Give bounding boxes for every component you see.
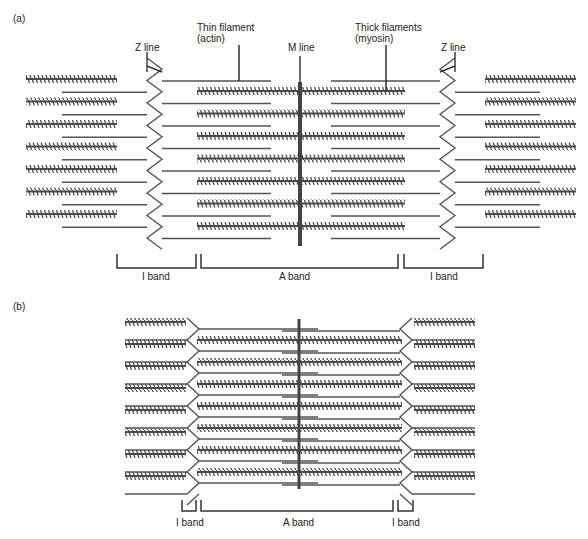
- panel-b-a-band-label: A band: [283, 517, 314, 528]
- i-band-bracket-right: [398, 500, 413, 511]
- panel-a-i-band-right-label: I band: [430, 271, 458, 282]
- i-band-bracket-right: [404, 254, 483, 268]
- thick-filament-label-line2: (myosin): [355, 33, 422, 44]
- panel-a-a-band-label: A band: [279, 271, 310, 282]
- a-band-bracket: [201, 500, 393, 511]
- panel-b-label: (b): [13, 301, 25, 312]
- i-band-bracket-left: [182, 500, 196, 511]
- panel-b-i-band-left-label: I band: [176, 517, 204, 528]
- thick-filament-label: Thick filaments (myosin): [355, 22, 422, 44]
- thick-filament-label-line1: Thick filaments: [355, 22, 422, 33]
- z-line-right-label: Z line: [441, 42, 465, 53]
- sarcomere-diagram: [0, 0, 588, 539]
- thin-filament-label-line2: (actin): [197, 33, 254, 44]
- thin-filament-label-line1: Thin filament: [197, 22, 254, 33]
- panel-a-relaxed: [26, 45, 576, 268]
- panel-a-label: (a): [13, 13, 25, 24]
- thin-filament-label: Thin filament (actin): [197, 22, 254, 44]
- panel-b-i-band-right-label: I band: [392, 517, 420, 528]
- a-band-bracket: [201, 254, 398, 268]
- z-line-left-label: Z line: [135, 42, 159, 53]
- panel-a-i-band-left-label: I band: [142, 271, 170, 282]
- z-line: [440, 58, 455, 249]
- panel-b-contracted: [125, 318, 475, 511]
- m-line-label: M line: [288, 42, 315, 53]
- i-band-bracket-left: [117, 254, 196, 268]
- z-line: [147, 58, 162, 249]
